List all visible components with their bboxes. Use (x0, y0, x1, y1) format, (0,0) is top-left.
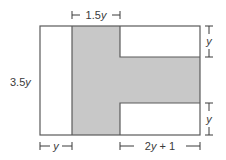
figure-canvas: 1.5y 3.5y y y y 2y + 1 (0, 0, 226, 160)
label-right-bottom: y (205, 113, 213, 125)
label-bottom-right: 2y + 1 (145, 140, 175, 152)
label-right-top: y (205, 35, 213, 47)
shaded-outline-top (120, 26, 200, 57)
shaded-vertical-strip (72, 26, 120, 135)
label-left-height: 3.5y (10, 76, 32, 88)
label-top-width: 1.5y (86, 9, 108, 21)
shaded-horizontal-bar (120, 57, 200, 103)
shaded-outline-bottom (120, 103, 200, 135)
label-bottom-left: y (52, 140, 60, 152)
